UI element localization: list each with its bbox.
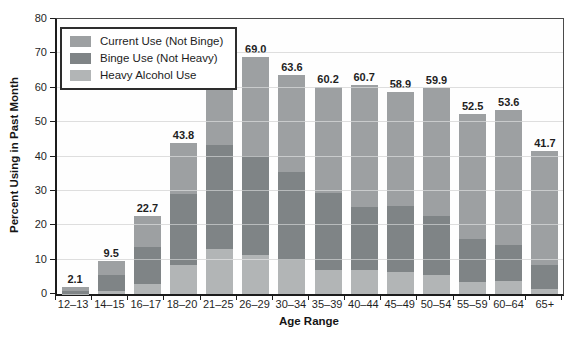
x-tick-label-16–17: 16–17 — [128, 298, 164, 310]
bar-value-label: 9.5 — [104, 247, 119, 259]
bar-segment-binge-use-not-heavy — [98, 275, 125, 291]
gridline-50 — [57, 121, 563, 122]
stacked-bar-chart-alcohol-use-by-age: Percent Using in Past Month 010203040506… — [0, 0, 578, 346]
bar-value-label: 63.6 — [281, 61, 302, 73]
bar-group-65+: 41.7 — [527, 19, 563, 294]
bar-group-50–54: 59.9 — [418, 19, 454, 294]
gridline-10 — [57, 259, 563, 260]
bar-segment-heavy-alcohol-use — [134, 284, 161, 294]
x-tick-label-60–64: 60–64 — [490, 298, 526, 310]
bar-segment-binge-use-not-heavy — [134, 247, 161, 284]
y-tick-label-50: 50 — [7, 115, 47, 127]
bar-group-45–49: 58.9 — [382, 19, 418, 294]
x-tick-label-12–13: 12–13 — [55, 298, 91, 310]
bar-segment-heavy-alcohol-use — [351, 270, 378, 294]
x-tick-label-65+: 65+ — [527, 298, 563, 310]
x-tick-label-21–25: 21–25 — [200, 298, 236, 310]
bar-segment-current-use-not-binge — [242, 57, 269, 156]
x-tick-labels: 12–1314–1516–1718–2021–2526–2930–3435–39… — [55, 298, 563, 310]
bar-segment-binge-use-not-heavy — [387, 206, 414, 272]
bar-stack — [170, 143, 197, 294]
y-tick-label-20: 20 — [7, 218, 47, 230]
legend-label: Heavy Alcohol Use — [100, 69, 197, 82]
bar-segment-current-use-not-binge — [315, 87, 342, 193]
bar-segment-current-use-not-binge — [531, 151, 558, 265]
bar-segment-binge-use-not-heavy — [278, 172, 305, 260]
bar-value-label: 22.7 — [137, 202, 158, 214]
y-tick-label-10: 10 — [7, 253, 47, 265]
bar-stack — [423, 88, 450, 294]
x-tick-label-14–15: 14–15 — [91, 298, 127, 310]
bar-segment-heavy-alcohol-use — [206, 249, 233, 294]
bar-value-label: 60.7 — [353, 71, 374, 83]
bar-segment-heavy-alcohol-use — [495, 281, 522, 294]
legend-swatch-icon — [70, 36, 91, 47]
x-tick-label-18–20: 18–20 — [164, 298, 200, 310]
bar-value-label: 52.5 — [462, 100, 483, 112]
bar-segment-heavy-alcohol-use — [278, 260, 305, 294]
bar-segment-binge-use-not-heavy — [351, 207, 378, 270]
bar-segment-current-use-not-binge — [170, 143, 197, 193]
bar-segment-binge-use-not-heavy — [459, 239, 486, 282]
bar-segment-heavy-alcohol-use — [423, 275, 450, 294]
bar-value-label: 53.6 — [498, 96, 519, 108]
bar-segment-current-use-not-binge — [423, 88, 450, 216]
y-tick-label-80: 80 — [7, 12, 47, 24]
x-axis-title: Age Range — [55, 315, 563, 327]
legend-label: Binge Use (Not Heavy) — [100, 52, 218, 65]
plot-area: 2.19.522.743.869.369.063.660.260.758.959… — [55, 18, 564, 296]
bar-segment-current-use-not-binge — [134, 216, 161, 247]
gridline-30 — [57, 190, 563, 191]
bar-value-label: 60.2 — [317, 73, 338, 85]
bar-stack — [459, 114, 486, 294]
x-tick-label-40–44: 40–44 — [345, 298, 381, 310]
bar-group-40–44: 60.7 — [346, 19, 382, 294]
legend-item: Binge Use (Not Heavy) — [70, 52, 223, 65]
bar-group-60–64: 53.6 — [491, 19, 527, 294]
legend-item: Current Use (Not Binge) — [70, 35, 223, 48]
legend-item: Heavy Alcohol Use — [70, 69, 223, 82]
bar-segment-heavy-alcohol-use — [459, 282, 486, 294]
bar-segment-binge-use-not-heavy — [242, 156, 269, 255]
bar-segment-binge-use-not-heavy — [531, 265, 558, 289]
gridline-20 — [57, 224, 563, 225]
x-tick-label-55–59: 55–59 — [454, 298, 490, 310]
bar-stack — [98, 261, 125, 294]
bar-segment-current-use-not-binge — [278, 75, 305, 172]
bar-group-35–39: 60.2 — [310, 19, 346, 294]
legend: Current Use (Not Binge)Binge Use (Not He… — [60, 27, 237, 90]
y-tick-label-0: 0 — [7, 287, 47, 299]
x-tick-label-50–54: 50–54 — [418, 298, 454, 310]
bar-segment-heavy-alcohol-use — [531, 289, 558, 294]
x-tick-label-35–39: 35–39 — [309, 298, 345, 310]
bar-segment-heavy-alcohol-use — [98, 291, 125, 294]
bar-segment-binge-use-not-heavy — [170, 194, 197, 265]
bar-stack — [62, 287, 89, 294]
bar-stack — [531, 151, 558, 294]
x-tick-label-45–49: 45–49 — [382, 298, 418, 310]
gridline-40 — [57, 156, 563, 157]
y-axis: 01020304050607080 — [0, 18, 55, 293]
bar-segment-current-use-not-binge — [351, 85, 378, 207]
legend-label: Current Use (Not Binge) — [100, 35, 223, 48]
x-tick-label-26–29: 26–29 — [236, 298, 272, 310]
bar-segment-heavy-alcohol-use — [387, 272, 414, 294]
bar-group-30–34: 63.6 — [274, 19, 310, 294]
bar-segment-heavy-alcohol-use — [242, 255, 269, 294]
bar-group-55–59: 52.5 — [455, 19, 491, 294]
legend-swatch-icon — [70, 53, 91, 64]
bar-segment-binge-use-not-heavy — [495, 245, 522, 281]
bar-value-label: 2.1 — [67, 273, 82, 285]
y-tick-label-60: 60 — [7, 81, 47, 93]
bar-stack — [495, 110, 522, 294]
bar-value-label: 59.9 — [426, 74, 447, 86]
y-tick-label-30: 30 — [7, 184, 47, 196]
bar-group-26–29: 69.0 — [238, 19, 274, 294]
bar-value-label: 41.7 — [534, 137, 555, 149]
y-tick-label-40: 40 — [7, 150, 47, 162]
legend-swatch-icon — [70, 70, 91, 81]
bar-segment-current-use-not-binge — [98, 261, 125, 275]
bar-segment-heavy-alcohol-use — [315, 270, 342, 294]
bar-segment-current-use-not-binge — [459, 114, 486, 239]
bar-stack — [134, 216, 161, 294]
